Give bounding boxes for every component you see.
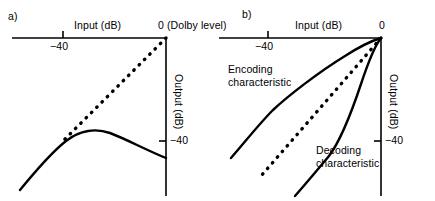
panel-b-y-tick-label-minus40: −40 <box>385 134 403 146</box>
panel-b: b) Input (dB) −40 0 Output (dB) −40 Enco… <box>215 0 435 201</box>
panel-a-x-tick-label-minus40: −40 <box>50 40 68 52</box>
panel-a-linear-reference-curve <box>60 38 166 144</box>
panel-a-noise-reduction-curve <box>20 130 166 190</box>
panel-b-y-axis-title: Output (dB) <box>388 74 400 129</box>
panel-a-x-axis-title: Input (dB) <box>74 19 121 31</box>
dolby-characteristics-figure: a) Input (dB) −40 0 (Dolby level) Output… <box>0 0 435 201</box>
panel-b-x-tick-label-minus40: −40 <box>255 40 273 52</box>
panel-b-decoding-label: Decoding characteristic <box>316 144 379 169</box>
panel-b-encoding-curve <box>231 38 381 158</box>
panel-b-encoding-label: Encoding characteristic <box>228 63 291 88</box>
panel-b-x-axis-title: Input (dB) <box>295 19 342 31</box>
panel-a: a) Input (dB) −40 0 (Dolby level) Output… <box>0 0 215 201</box>
panel-a-tag: a) <box>8 10 18 22</box>
panel-b-tag: b) <box>242 8 252 20</box>
panel-a-y-tick-label-minus40: −40 <box>170 134 188 146</box>
panel-b-origin-label: 0 <box>379 19 385 31</box>
panel-a-y-axis-title: Output (dB) <box>173 74 185 129</box>
